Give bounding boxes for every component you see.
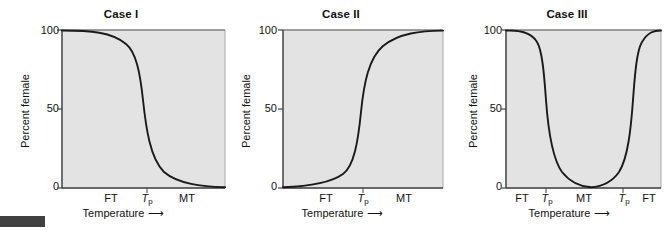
plot-area-case-iii [448, 0, 672, 230]
x-tick-label-tp-case-i: Tp [141, 192, 152, 206]
x-tick-label-ft-case-i: FT [104, 192, 117, 204]
x-tick-label-tp-left-case-iii: Tp [541, 192, 552, 206]
arrow-right-icon: ⟶ [367, 207, 382, 220]
panel-case-i: Case I Percent female 100 50 0 FT Tp MT [0, 0, 224, 230]
figure-corner-bar [0, 216, 45, 227]
arrow-right-icon: ⟶ [594, 207, 609, 220]
x-tick-label-ft-left-case-iii: FT [515, 192, 528, 204]
panel-case-ii: Case II Percent female 100 50 0 FT Tp MT [221, 0, 445, 230]
x-axis-title-case-iii: Temperature⟶ [448, 207, 672, 220]
x-tick-label-mt-case-i: MT [179, 192, 195, 204]
x-axis-title-case-ii: Temperature⟶ [221, 207, 445, 220]
x-tick-label-tp-case-ii: Tp [357, 192, 368, 206]
arrow-right-icon: ⟶ [148, 207, 163, 220]
plot-background-case-ii [283, 30, 443, 188]
panel-case-iii: Case III Percent female 100 50 0 FT Tp M… [448, 0, 672, 230]
x-tick-label-mt-case-iii: MT [576, 192, 592, 204]
figure-container: Case I Percent female 100 50 0 FT Tp MT [0, 0, 672, 230]
x-tick-label-tp-right-case-iii: Tp [618, 192, 629, 206]
x-axis-title-text: Temperature [302, 207, 364, 219]
x-tick-label-ft-case-ii: FT [319, 192, 332, 204]
x-tick-label-ft-right-case-iii: FT [642, 192, 655, 204]
x-axis-title-text: Temperature [529, 207, 591, 219]
x-axis-title-text: Temperature [83, 207, 145, 219]
x-tick-label-mt-case-ii: MT [396, 192, 412, 204]
